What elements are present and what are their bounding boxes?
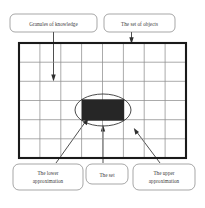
the-set-callout: The set	[86, 164, 128, 184]
lower-approximation-callout-label-line2: approximation	[33, 178, 64, 184]
rough-set-diagram: Granules of knowledge The set of objects…	[0, 0, 205, 208]
upper-approximation-callout-label-line2: approximation	[149, 178, 180, 184]
upper-approximation-callout: The upper approximation	[133, 164, 195, 190]
set-of-objects-callout: The set of objects	[104, 14, 175, 32]
lower-approximation-callout-label-line1: The lower	[37, 170, 58, 176]
lower-approximation-rect	[82, 100, 124, 121]
granules-callout: Granules of knowledge	[10, 14, 97, 32]
the-set-callout-label: The set	[99, 172, 115, 178]
lower-approximation-callout: The lower approximation	[13, 164, 83, 190]
granules-callout-label: Granules of knowledge	[29, 21, 78, 27]
upper-approximation-callout-box	[133, 164, 195, 190]
upper-approximation-callout-label-line1: The upper	[153, 170, 174, 176]
granules-arrow	[51, 32, 55, 82]
lower-approximation-callout-box	[13, 164, 83, 190]
set-of-objects-callout-label: The set of objects	[121, 21, 158, 27]
